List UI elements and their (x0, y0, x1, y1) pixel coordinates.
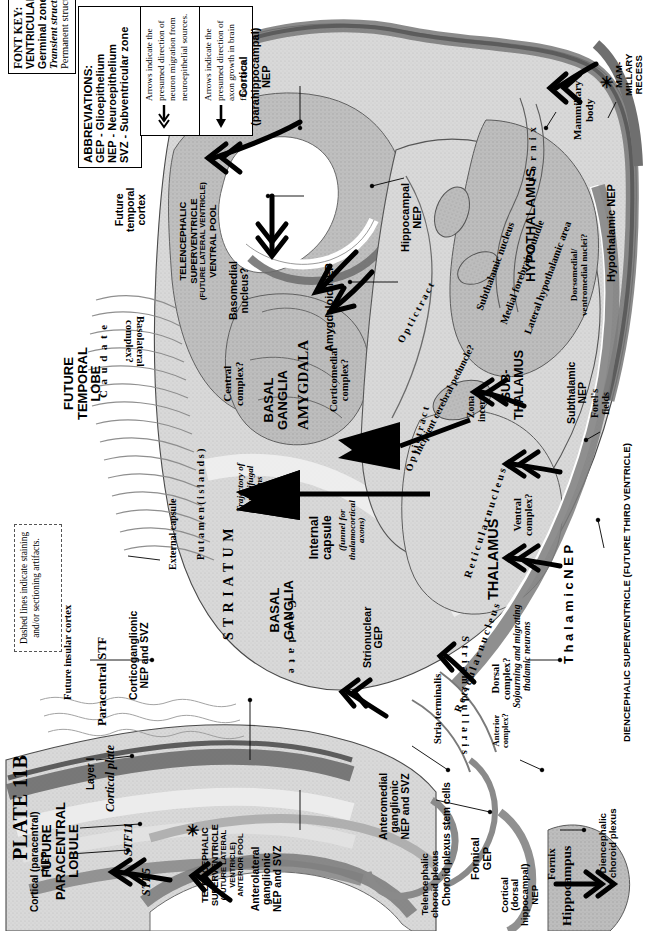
cc-line-1: complex? (234, 361, 246, 406)
mb-line-0: Mammillary (572, 81, 584, 140)
dashed-lines-note-box: Dashed lines indicate staining and/or se… (14, 524, 62, 652)
vc-line-0: Ventral (512, 493, 523, 536)
ff-line-1: fields (601, 389, 612, 418)
cortical-paracentral-nep-line-1: NEP (41, 811, 52, 912)
cmc-line-0: Corticomedial (328, 348, 339, 412)
label-anterolateral-ganglionic-nep-svz: Anterolateral ganglionic NEP and SVZ (250, 846, 283, 912)
label-diencephalic-choroid-plexus: Diencephalic choroid plexus (598, 808, 619, 878)
label-telencephalic-superventricle-ventral: TELENCEPHALIC SUPERVENTRICLE (FUTURE LAT… (178, 182, 219, 300)
label-fornix-lower: Fornix (546, 848, 558, 880)
label-thalamus: THALAMUS (486, 519, 501, 600)
label-cortical-dorsal-hippocampal-nep: Cortical (dorsal hippocampal) NEP (500, 864, 540, 926)
abbreviations-box: ABBREVIATIONS: GEP - Glioepithelium NEP … (78, 6, 142, 168)
abbrev-gep: GEP - Glioepithelium (94, 11, 106, 163)
abbreviations-title: ABBREVIATIONS: (82, 11, 94, 163)
label-internal-capsule: Internal capsule (308, 515, 333, 560)
page-title: PLATE 11B (10, 755, 31, 860)
label-dorsomedial-ventromedial-nuclei: Dorsomedial/ ventromedial nuclei? (570, 234, 589, 316)
label-mammillary-recess: MAM- MILLARY RECESS (614, 54, 644, 96)
label-amygdala: AMYGDALA (296, 340, 312, 430)
fgep-line-0: Fornical (470, 837, 482, 880)
bgu-line-0: BASAL (262, 370, 276, 430)
ftc-line-2: cortex (136, 188, 147, 232)
dc-line-0: Dorsal (490, 657, 501, 700)
zi-line-0: Zona (466, 392, 477, 422)
label-sub-thalamus: SUB- THALAMUS (500, 350, 526, 420)
abbrev-nep: NEP - Neuroepithelium (106, 11, 118, 163)
label-corticoganglionic-nep-svz: Corticoganglionic NEP and SVZ (128, 611, 150, 700)
dmvm-line-1: ventromedial nuclei? (580, 234, 590, 316)
mb-line-1: body (584, 81, 596, 140)
tsa-line-4: ANTERIOR POOL (237, 824, 246, 906)
bmn-line-1: nucleus? (239, 261, 250, 320)
cph-line-0: Cortical (238, 28, 250, 126)
bgu-line-1: GANGLIA (276, 370, 290, 430)
migration-arrow-key-box: Arrows indicate the presumed direction o… (140, 6, 200, 136)
svg-text:✳: ✳ (600, 74, 613, 91)
st-line-1: THALAMUS (513, 350, 526, 420)
label-anterior-complex: Anterior complex? (492, 713, 510, 748)
ftl-line-0: FUTURE (62, 347, 76, 420)
label-zona-incerta: Zona incerta (466, 392, 487, 422)
label-hypothalamic-nep: Hypothalamic NEP (606, 184, 618, 282)
label-caudate-lower: C a u d a t e (286, 600, 298, 674)
alg-line-2: NEP and SVZ (272, 846, 283, 912)
font-key-line-3: Permanent structure - Times Roman or Bol… (59, 0, 70, 69)
font-key-line-1: Germinal zone - Helvetica bold (36, 0, 48, 69)
smtn-line-1: thalamic neurons (522, 605, 532, 708)
label-subthalamic-nep: Subthalamic NEP (566, 362, 588, 424)
label-amygdaloid-nep: Amygdaloid NEP (324, 263, 336, 352)
blc-line-1: complex? (124, 316, 135, 367)
tsv-line-3: VENTRAL POOL (208, 182, 219, 300)
label-dorsal-complex: Dorsal complex? (490, 657, 512, 700)
label-hippocampus: Hippocampus (560, 846, 574, 926)
cc-line-0: Central (222, 361, 234, 406)
region-title-line-2: LOBULE (67, 802, 81, 900)
label-diencephalic-superventricle: DIENCEPHALIC SUPERVENTRICLE (FUTURE THIR… (622, 443, 632, 742)
label-thalamic-nep: T h a l a m i c N E P (562, 545, 576, 664)
label-corticomedial-complex: Corticomedial complex? (328, 348, 350, 412)
label-cortical-plate: Cortical plate (104, 745, 117, 812)
label-paracentral-stf: Paracentral STF (96, 637, 109, 726)
cdh-line-3: NEP (530, 864, 540, 926)
label-fornical-gep: Fornical GEP (470, 837, 493, 880)
label-layer-i: Layer I (86, 758, 97, 790)
corticoganglionic-line-1: NEP and SVZ (139, 611, 150, 700)
label-stria-terminalis: Stria terminalis (432, 674, 443, 744)
label-putamen-islands: P u t a m e n ( i s l a n d s ) (196, 449, 207, 560)
icf-line-2: axons) (357, 500, 367, 560)
font-key-box: FONT KEY: VENTRICULAR DIVISIONS – CAPITA… (8, 0, 76, 74)
stn-line-1: NEP (577, 362, 588, 424)
label-stf11: STF11 (122, 823, 135, 856)
ic-line-1: capsule (321, 515, 334, 560)
ic-line-0: Internal (308, 515, 321, 560)
svg-text:✳: ✳ (186, 822, 199, 839)
ftl-line-1: TEMPORAL (76, 347, 90, 420)
double-chevron-arrow-icon (158, 105, 170, 131)
font-key-title: FONT KEY: (12, 0, 24, 69)
label-future-insular-cortex: Future insular cortex (62, 605, 73, 700)
sgep-line-1: GEP (373, 607, 384, 668)
label-basomedial-nucleus: Basomedial nucleus? (228, 261, 250, 320)
label-ventral-complex: Ventral complex? (512, 493, 534, 536)
ff-line-0: Forel's (590, 389, 601, 418)
label-central-complex: Central complex? (222, 361, 245, 406)
abbrev-svz: SVZ - Subventricular zone (118, 11, 130, 163)
label-anteromedial-ganglionic-nep-svz: Anteromedial ganglionic NEP and SVZ (378, 773, 411, 840)
plate-figure: ✳ ✳ FONT KEY: VENTRICULAR DIVISIONS – CA… (0, 0, 655, 931)
solid-arrow-icon (215, 105, 227, 131)
label-basal-ganglia-upper: BASAL GANGLIA (262, 370, 289, 430)
label-hypothalamus: HYPOTHALAMUS (524, 168, 538, 282)
label-cortical-parahippocampal-nep: Cortical (parahippocampal) NEP (238, 28, 273, 126)
hn-line-1: NEP (412, 183, 424, 252)
label-choroid-plexus-stem-cells: Choroid plexus stem cells (442, 782, 453, 906)
label-basolateral-complex: Basolateral complex? (124, 316, 146, 367)
label-trajectory-corticifugal-axons: Trajectory of corticifugal axons (236, 463, 265, 512)
label-caudate-upper: C a u d a t e (98, 324, 110, 398)
hn-line-0: Hippocampal (400, 183, 412, 252)
label-forels-fields: Forel's fields (590, 389, 611, 418)
dcp-line-1: choroid plexus (608, 808, 618, 878)
bgl-line-0: BASAL (268, 580, 282, 640)
label-telencephalic-choroid-plexus: Telencephalic choroid plexus (420, 850, 440, 918)
vc-line-1: complex? (523, 493, 534, 536)
